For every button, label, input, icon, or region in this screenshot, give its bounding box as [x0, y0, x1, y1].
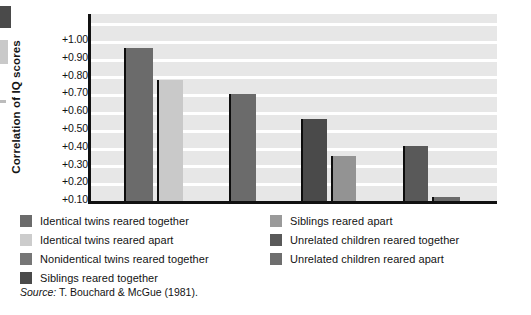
y-axis-tick-label: +0.10 [62, 193, 88, 205]
bar [229, 94, 256, 201]
bar [403, 146, 428, 201]
legend-swatch-icon [270, 215, 282, 227]
legend-swatch-icon [270, 234, 282, 246]
bar [157, 80, 183, 201]
bar [331, 156, 356, 201]
y-axis-tick-label: +0.60 [62, 104, 88, 116]
legend-column-left: Identical twins reared togetherIdentical… [20, 212, 209, 288]
plot-area [88, 14, 497, 204]
legend-item: Nonidentical twins reared together [20, 250, 209, 268]
y-axis-tick-label: +0.40 [62, 140, 88, 152]
bar [124, 48, 153, 201]
legend-swatch-icon [270, 253, 282, 265]
legend-item: Siblings reared apart [270, 212, 459, 230]
y-axis-tick-label: +0.90 [62, 51, 88, 63]
y-axis-tick-label: +0.20 [62, 175, 88, 187]
y-axis-tick-labels: +1.00+0.90+0.80+0.70+0.60+0.50+0.40+0.30… [44, 22, 88, 204]
bar [432, 197, 461, 201]
legend-item: Unrelated children reared together [270, 231, 459, 249]
legend: Identical twins reared togetherIdentical… [20, 212, 520, 272]
legend-item: Identical twins reared apart [20, 231, 209, 249]
legend-swatch-icon [20, 272, 32, 284]
legend-label: Identical twins reared apart [40, 234, 173, 246]
gridline [91, 41, 497, 44]
y-axis-tick-label: +0.30 [62, 158, 88, 170]
y-axis-title: Correlation of IQ scores [8, 22, 24, 192]
chart-figure: Correlation of IQ scores +1.00+0.90+0.80… [0, 0, 531, 315]
legend-label: Siblings reared together [40, 272, 158, 284]
plot-inner [91, 14, 497, 201]
y-axis-tick-label: +0.70 [62, 86, 88, 98]
source-note: Source: T. Bouchard & McGue (1981). [20, 286, 198, 298]
page-edge-artifact [0, 100, 6, 103]
y-axis-tick-label: +1.00 [62, 33, 88, 45]
legend-column-right: Siblings reared apartUnrelated children … [270, 212, 459, 269]
y-axis-tick-label: +0.50 [62, 122, 88, 134]
legend-item: Identical twins reared together [20, 212, 209, 230]
source-label: Source: [20, 286, 56, 298]
y-axis-tick-label: +0.80 [62, 69, 88, 81]
gridline [91, 23, 497, 26]
legend-swatch-icon [20, 215, 32, 227]
page-edge-artifact [0, 40, 8, 64]
legend-label: Unrelated children reared apart [290, 253, 444, 265]
source-text: T. Bouchard & McGue (1981). [59, 286, 198, 298]
legend-swatch-icon [20, 253, 32, 265]
legend-label: Unrelated children reared together [290, 234, 459, 246]
legend-label: Siblings reared apart [290, 215, 393, 227]
legend-item: Unrelated children reared apart [270, 250, 459, 268]
legend-swatch-icon [20, 234, 32, 246]
legend-label: Nonidentical twins reared together [40, 253, 209, 265]
bar [301, 119, 327, 201]
legend-label: Identical twins reared together [40, 215, 189, 227]
legend-item: Siblings reared together [20, 269, 209, 287]
